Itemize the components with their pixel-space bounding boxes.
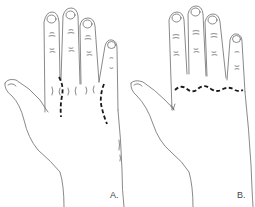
hand-illustration-a <box>0 0 128 207</box>
panel-a: A. <box>0 0 128 207</box>
panel-b: B. <box>127 0 255 207</box>
panel-label-a: A. <box>110 190 119 200</box>
hand-illustration-b <box>127 0 255 207</box>
panel-label-b: B. <box>237 190 246 200</box>
hand-incision-figure: A. <box>0 0 255 207</box>
